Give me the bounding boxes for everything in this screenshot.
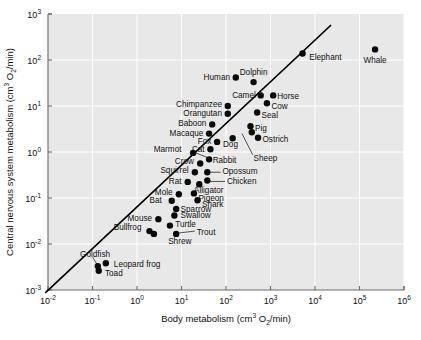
data-point-label: Bat xyxy=(150,196,163,205)
data-point[interactable] xyxy=(372,46,378,52)
data-point-label: Elephant xyxy=(309,53,342,62)
data-point[interactable] xyxy=(167,222,173,228)
data-point[interactable] xyxy=(255,135,261,141)
y-tick-label: 10-3 xyxy=(25,284,41,296)
data-point-label: Orangutan xyxy=(183,109,222,118)
x-tick-label: 106 xyxy=(397,294,411,306)
data-point-label: Camel xyxy=(232,91,256,100)
y-tick-label: 101 xyxy=(27,100,41,112)
data-point-label: Squirrel xyxy=(160,166,188,175)
data-point-label: Rat xyxy=(169,177,182,186)
data-point-label: Mouse xyxy=(128,214,153,223)
data-point-label: Toad xyxy=(105,269,123,278)
data-point[interactable] xyxy=(249,129,255,135)
data-point-label: Baboon xyxy=(178,119,207,128)
y-tick-label: 100 xyxy=(27,146,41,158)
data-point[interactable] xyxy=(214,139,220,145)
data-point-label: Pig xyxy=(255,124,267,133)
data-point[interactable] xyxy=(194,197,200,203)
data-point[interactable] xyxy=(299,50,305,56)
data-point-label: Crow xyxy=(175,157,194,166)
data-point-label: Whale xyxy=(363,56,387,65)
data-point[interactable] xyxy=(233,74,239,80)
x-axis-title: Body metabolism (cm3 O2/min) xyxy=(161,312,291,325)
data-point[interactable] xyxy=(206,130,212,136)
data-point[interactable] xyxy=(197,160,203,166)
y-tick-label: 10-1 xyxy=(25,192,41,204)
data-point-label: Chicken xyxy=(227,177,257,186)
data-point[interactable] xyxy=(96,267,102,273)
data-point[interactable] xyxy=(146,228,152,234)
data-point[interactable] xyxy=(185,179,191,185)
data-point[interactable] xyxy=(204,177,210,183)
data-point-label: Trout xyxy=(197,228,217,237)
data-point[interactable] xyxy=(204,169,210,175)
data-point[interactable] xyxy=(173,206,179,212)
y-axis-title: Central nervous system metabolism (cm3 O… xyxy=(3,48,16,256)
data-point-label: Dolphin xyxy=(240,68,268,77)
x-tick-label: 10-1 xyxy=(85,294,101,306)
scatter-plot: 10-210-110010110210310410510610310210110… xyxy=(0,0,421,340)
data-point-label: Sheep xyxy=(254,154,278,163)
x-tick-label: 104 xyxy=(308,294,322,306)
x-tick-label: 100 xyxy=(130,294,144,306)
data-point-label: Rabbit xyxy=(213,156,237,165)
x-tick-label: 101 xyxy=(175,294,189,306)
data-point-label: Chimpanzee xyxy=(176,100,222,109)
data-point[interactable] xyxy=(176,191,182,197)
data-point-label: Seal xyxy=(262,111,279,120)
data-point[interactable] xyxy=(225,103,231,109)
data-point-label: Turtle xyxy=(175,220,196,229)
data-point[interactable] xyxy=(171,212,177,218)
y-tick-label: 10-2 xyxy=(25,238,41,250)
data-point-label: Dog xyxy=(223,140,238,149)
data-point-label: Opossum xyxy=(222,167,257,176)
x-tick-label: 102 xyxy=(219,294,233,306)
data-point[interactable] xyxy=(206,156,212,162)
data-point-label: Goldfish xyxy=(80,250,110,259)
y-tick-label: 102 xyxy=(27,54,41,66)
data-point-label: Shrew xyxy=(168,237,191,246)
x-tick-label: 103 xyxy=(264,294,278,306)
data-point[interactable] xyxy=(270,92,276,98)
figure-container: 10-210-110010110210310410510610310210110… xyxy=(0,0,421,340)
data-point[interactable] xyxy=(192,169,198,175)
data-point-label: Bullfrog xyxy=(114,223,142,232)
data-point[interactable] xyxy=(207,146,213,152)
data-point-label: Horse xyxy=(277,92,299,101)
data-point-label: Leopard frog xyxy=(114,260,161,269)
data-point-label: Ostrich xyxy=(262,135,288,144)
data-point[interactable] xyxy=(254,109,260,115)
data-point[interactable] xyxy=(225,111,231,117)
x-tick-label: 10-2 xyxy=(40,294,56,306)
data-point-label: Marmot xyxy=(154,145,182,154)
data-point[interactable] xyxy=(258,92,264,98)
data-point-label: Cow xyxy=(271,102,287,111)
data-point[interactable] xyxy=(169,198,175,204)
x-tick-label: 105 xyxy=(353,294,367,306)
data-point[interactable] xyxy=(250,79,256,85)
data-point[interactable] xyxy=(191,190,197,196)
data-point[interactable] xyxy=(190,150,196,156)
data-point[interactable] xyxy=(247,123,253,129)
data-point[interactable] xyxy=(209,121,215,127)
data-point[interactable] xyxy=(103,260,109,266)
data-point-label: Human xyxy=(204,73,231,82)
y-tick-label: 103 xyxy=(27,8,41,20)
data-point-label: Swallow xyxy=(181,211,211,220)
data-point[interactable] xyxy=(264,100,270,106)
data-point[interactable] xyxy=(155,216,161,222)
